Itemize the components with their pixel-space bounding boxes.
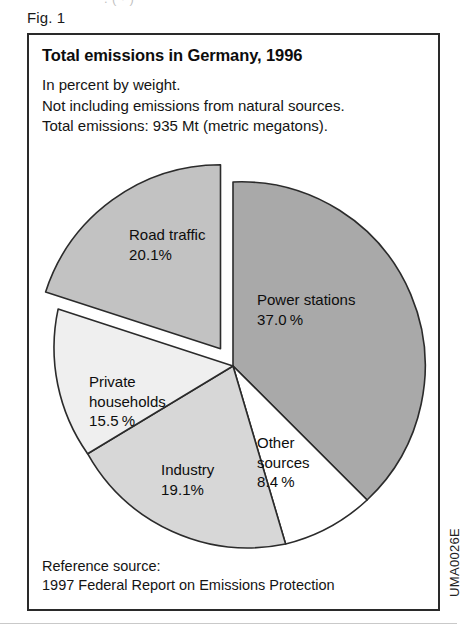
pie-label-private-households-value: 15.5 % — [89, 411, 166, 431]
pie-slices — [46, 165, 426, 548]
pie-label-industry-value: 19.1% — [161, 480, 214, 500]
pie-label-power-stations-value: 37.0 % — [257, 310, 355, 330]
figure-caption: Fig. 1 — [27, 9, 65, 26]
figure-description: In percent by weight. Not including emis… — [42, 75, 345, 137]
scan-top-artifact: . ( · ) — [0, 0, 457, 7]
pie-label-road-traffic-value: 20.1% — [129, 245, 205, 265]
document-code: UMA0026E — [447, 528, 462, 597]
pie-label-other-sources-name-1: Other — [257, 433, 310, 453]
pie-label-private-households-name-1: Private — [89, 372, 166, 392]
figure-title: Total emissions in Germany, 1996 — [42, 46, 302, 65]
pie-label-other-sources-value: 8.4 % — [257, 472, 310, 492]
reference-source-label: Reference source: — [42, 557, 335, 576]
description-line-3: Total emissions: 935 Mt (metric megatons… — [42, 116, 345, 137]
reference-source-value: 1997 Federal Report on Emissions Protect… — [42, 576, 335, 595]
pie-label-power-stations-name: Power stations — [257, 290, 355, 310]
description-line-1: In percent by weight. — [42, 75, 345, 96]
pie-label-road-traffic-name: Road traffic — [129, 225, 205, 245]
pie-label-other-sources-name-2: sources — [257, 453, 310, 473]
page-bottom-rule — [0, 623, 457, 624]
description-line-2: Not including emissions from natural sou… — [42, 96, 345, 117]
pie-label-private-households-name-2: households — [89, 392, 166, 412]
pie-label-industry-name: Industry — [161, 460, 214, 480]
pie-label-road-traffic: Road traffic 20.1% — [129, 225, 205, 264]
pie-label-private-households: Private households 15.5 % — [89, 372, 166, 431]
pie-label-other-sources: Other sources 8.4 % — [257, 433, 310, 492]
pie-label-industry: Industry 19.1% — [161, 460, 214, 499]
figure-frame: Total emissions in Germany, 1996 In perc… — [27, 33, 440, 611]
pie-label-power-stations: Power stations 37.0 % — [257, 290, 355, 329]
reference-source: Reference source: 1997 Federal Report on… — [42, 557, 335, 595]
